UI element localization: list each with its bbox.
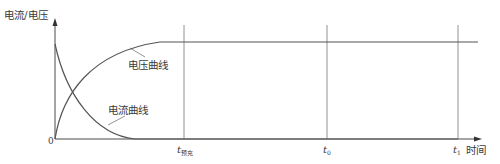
x-axis-label: 时间 bbox=[466, 145, 486, 156]
tick-t1-sub: 1 bbox=[457, 149, 461, 156]
chart-canvas bbox=[0, 0, 500, 164]
origin-label: 0 bbox=[48, 137, 54, 146]
tick-t0: t0 bbox=[323, 145, 331, 156]
current-leader-line bbox=[108, 116, 125, 125]
tick-t1: t1 bbox=[453, 145, 461, 156]
voltage-leader-line bbox=[130, 48, 145, 57]
tick-t-precharge: t预充 bbox=[177, 145, 193, 156]
voltage-curve-label: 电压曲线 bbox=[128, 60, 168, 71]
current-curve bbox=[55, 44, 458, 139]
tick-t-precharge-sub: 预充 bbox=[181, 149, 193, 156]
y-axis-label: 电流/电压 bbox=[4, 10, 48, 21]
y-axis-arrow-icon bbox=[53, 18, 58, 26]
tick-t0-sub: 0 bbox=[327, 149, 331, 156]
voltage-curve bbox=[55, 42, 478, 139]
current-curve-label: 电流曲线 bbox=[108, 105, 148, 116]
x-axis-arrow-icon bbox=[474, 137, 482, 142]
